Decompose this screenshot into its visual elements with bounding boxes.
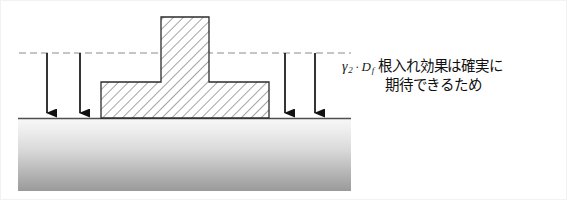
- figure-container: γ2·Df 根入れ効果は確実に 期待できるため: [0, 0, 567, 200]
- soil-mass: [18, 118, 351, 191]
- formula-gamma-df: γ2·Df: [342, 60, 374, 75]
- depth-subscript: f: [371, 65, 374, 75]
- annotation-text-line-2: 期待できるため: [385, 77, 482, 93]
- footing-outline: [101, 17, 269, 118]
- annotation-line-1: γ2·Df 根入れ効果は確実に: [342, 59, 562, 75]
- annotation-text-line-1: 根入れ効果は確実に: [378, 59, 502, 74]
- gamma-symbol: γ: [342, 59, 348, 74]
- annotation-line-2: 期待できるため: [342, 77, 562, 94]
- footing-shape: [101, 17, 269, 118]
- diagram-canvas: [1, 1, 567, 200]
- annotation-block: γ2·Df 根入れ効果は確実に 期待できるため: [342, 59, 562, 94]
- depth-symbol: D: [361, 59, 371, 74]
